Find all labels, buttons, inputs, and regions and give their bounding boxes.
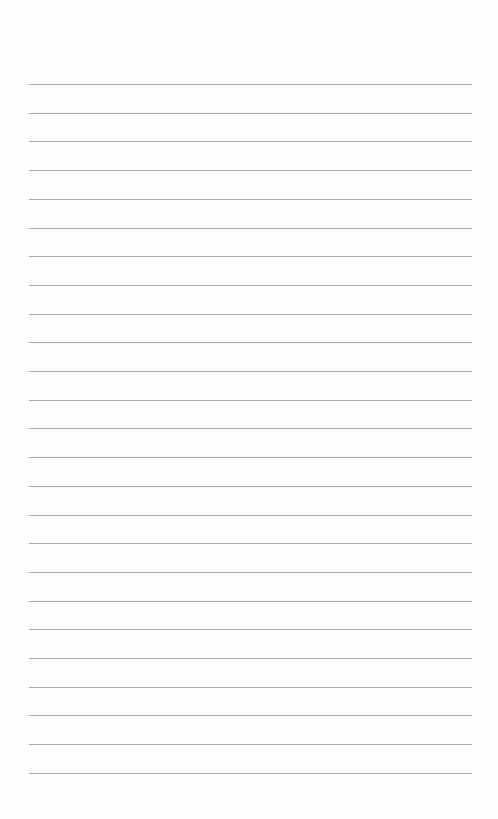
ruled-line (29, 113, 472, 114)
ruled-line (29, 543, 472, 544)
ruled-line (29, 486, 472, 487)
ruled-line (29, 629, 472, 630)
ruled-line (29, 314, 472, 315)
ruled-line (29, 371, 472, 372)
ruled-line (29, 170, 472, 171)
ruled-line (29, 658, 472, 659)
ruled-line (29, 256, 472, 257)
ruled-line (29, 400, 472, 401)
ruled-line (29, 773, 472, 774)
ruled-line (29, 228, 472, 229)
ruled-line (29, 744, 472, 745)
ruled-line (29, 199, 472, 200)
ruled-line (29, 84, 472, 85)
ruled-line (29, 342, 472, 343)
ruled-line (29, 285, 472, 286)
ruled-line (29, 601, 472, 602)
ruled-line (29, 457, 472, 458)
ruled-line (29, 428, 472, 429)
lined-paper-page (0, 0, 498, 819)
ruled-line (29, 687, 472, 688)
ruled-line (29, 572, 472, 573)
ruled-line (29, 715, 472, 716)
ruled-line (29, 141, 472, 142)
ruled-line (29, 515, 472, 516)
